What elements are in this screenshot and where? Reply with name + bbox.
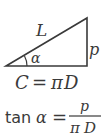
fraction-denominator-d: D (83, 119, 96, 137)
eq-pi: π (50, 72, 64, 93)
circumference-equation: C = π D (15, 71, 79, 93)
eq-c: C (15, 72, 29, 93)
tan-angle: α (36, 108, 47, 127)
eq-equals: = (32, 71, 47, 92)
hypotenuse-label: L (35, 20, 47, 40)
fraction-denominator-pi: π (69, 119, 81, 137)
tan-func: tan (5, 108, 31, 127)
fraction-numerator: p (80, 98, 89, 114)
tangent-equation: tan α = p π D (5, 98, 101, 137)
angle-label: α (31, 50, 41, 66)
angle-arc (25, 56, 28, 66)
eq-d: D (63, 72, 79, 93)
vertical-side-label: p (89, 40, 99, 59)
tan-equals: = (52, 106, 67, 127)
helix-triangle-diagram: L p α C = π D tan α = p π D (0, 0, 106, 138)
